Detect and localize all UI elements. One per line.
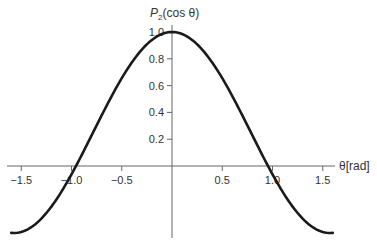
x-tick-label: −0.5 bbox=[111, 174, 133, 186]
y-ticks: 0.20.40.60.81.0 bbox=[149, 26, 172, 145]
x-tick-label: 0.5 bbox=[215, 174, 230, 186]
x-tick-label: −1.5 bbox=[10, 174, 32, 186]
y-tick-label: 0.2 bbox=[149, 133, 164, 145]
y-tick-label: 0.8 bbox=[149, 53, 164, 65]
y-axis-label: P2(cos θ) bbox=[150, 6, 199, 22]
x-ticks: −1.5−1.0−0.50.51.01.5 bbox=[10, 166, 330, 186]
y-tick-label: 0.6 bbox=[149, 80, 164, 92]
x-axis-label: θ[rad] bbox=[339, 159, 370, 173]
chart: −1.5−1.0−0.50.51.01.5 0.20.40.60.81.0 θ[… bbox=[0, 0, 377, 247]
axes bbox=[7, 25, 335, 238]
y-tick-label: 0.4 bbox=[149, 106, 164, 118]
x-tick-label: 1.5 bbox=[315, 174, 330, 186]
